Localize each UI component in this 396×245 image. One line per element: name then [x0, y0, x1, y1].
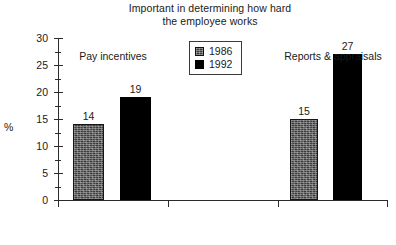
y-tick-label-25: 25 [36, 59, 48, 71]
y-tick-major-30: 30 [54, 38, 63, 39]
y-tick-minor-2-5 [55, 187, 61, 188]
x-tick-mid-2 [278, 200, 279, 207]
chart-legend: 1986 1992 [189, 41, 242, 75]
legend-item-1986: 1986 [195, 45, 232, 58]
y-tick-label-10: 10 [36, 140, 48, 152]
chart-title-line-1: Important in determining how hard [60, 2, 360, 15]
y-tick-minor-27-5 [55, 52, 61, 53]
bar-pay-incentives-1986: 14 [73, 124, 104, 200]
y-tick-label-5: 5 [42, 167, 48, 179]
y-tick-label-15: 15 [36, 113, 48, 125]
x-tick-right [387, 200, 388, 207]
chart-title: Important in determining how hard the em… [60, 2, 360, 27]
y-axis-title: % [4, 121, 13, 133]
y-tick-minor-22-5 [55, 79, 61, 80]
y-tick-minor-7-5 [55, 160, 61, 161]
legend-label-1986: 1986 [209, 46, 232, 57]
bar-pay-incentives-1992: 19 [120, 97, 151, 200]
legend-swatch-1992-icon [195, 60, 204, 69]
bar-value-pay-incentives-1986: 14 [83, 110, 95, 122]
legend-swatch-1986-icon [195, 47, 204, 56]
chart-title-line-2: the employee works [60, 15, 360, 28]
y-tick-label-0: 0 [42, 194, 48, 206]
y-tick-label-20: 20 [36, 86, 48, 98]
bar-chart: Important in determining how hard the em… [0, 0, 396, 245]
x-tick-left [58, 200, 59, 207]
y-tick-minor-12-5 [55, 133, 61, 134]
bar-value-reports-appraisals-1986: 15 [298, 105, 310, 117]
x-category-label-pay-incentives: Pay incentives [79, 50, 147, 62]
bar-reports-appraisals-1992: 27 [333, 54, 362, 200]
y-tick-major-25: 25 [54, 65, 63, 66]
bar-value-pay-incentives-1992: 19 [130, 83, 142, 95]
y-tick-minor-17-5 [55, 106, 61, 107]
y-tick-major-10: 10 [54, 146, 63, 147]
y-tick-major-15: 15 [54, 119, 63, 120]
y-tick-major-20: 20 [54, 92, 63, 93]
bar-reports-appraisals-1986: 15 [290, 119, 318, 200]
legend-label-1992: 1992 [209, 59, 232, 70]
legend-item-1992: 1992 [195, 58, 232, 71]
x-tick-mid-1 [168, 200, 169, 207]
y-tick-major-5: 5 [54, 173, 63, 174]
x-axis-line [58, 200, 388, 201]
x-category-label-reports-appraisals: Reports & appraisals [284, 50, 381, 62]
y-tick-label-30: 30 [36, 32, 48, 44]
